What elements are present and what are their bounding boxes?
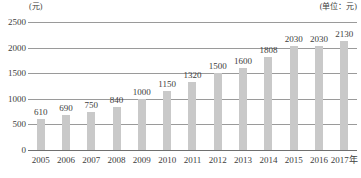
bar [214, 73, 222, 150]
y-axis-unit-label: (元) [29, 2, 42, 12]
bar [290, 46, 298, 150]
bar [239, 68, 247, 150]
x-axis-tick-label: 2013 [234, 155, 252, 165]
plot-area: 05001000150020002500 6102005690200675020… [28, 22, 357, 150]
chart-unit-note: (单位：元) [320, 2, 357, 12]
bar-value-label: 610 [34, 108, 48, 117]
x-axis-tick-label: 2016 [310, 155, 328, 165]
bar [138, 99, 146, 150]
bar-slot: 7502007 [79, 22, 104, 150]
x-axis-tick-label: 2017年 [331, 155, 358, 165]
bar-chart: (元) (单位：元) 05001000150020002500 61020056… [0, 0, 361, 178]
bar [37, 119, 45, 150]
bar-slot: 16002013 [230, 22, 255, 150]
y-axis-tick-label: 0 [2, 146, 26, 155]
bar-value-label: 2030 [285, 35, 303, 44]
bar-slot: 20302016 [306, 22, 331, 150]
y-axis-tick-label: 2500 [2, 18, 26, 27]
y-axis-tick-label: 2000 [2, 44, 26, 53]
bar [340, 41, 348, 150]
bar-value-label: 690 [59, 104, 73, 113]
x-axis-tick-label: 2009 [133, 155, 151, 165]
bar-value-label: 1150 [158, 80, 176, 89]
y-axis-tick-label: 1500 [2, 69, 26, 78]
bar-slot: 10002009 [129, 22, 154, 150]
x-axis-tick-label: 2008 [108, 155, 126, 165]
bar-slot: 6102005 [28, 22, 53, 150]
bar-value-label: 1500 [209, 62, 227, 71]
bar-value-label: 750 [85, 101, 99, 110]
bar-slot: 6902006 [53, 22, 78, 150]
bar-value-label: 1320 [183, 71, 201, 80]
bar-slot: 20302015 [281, 22, 306, 150]
gridline [28, 150, 357, 151]
x-axis-tick-label: 2015 [285, 155, 303, 165]
y-axis-tick-label: 1000 [2, 95, 26, 104]
bar-slot: 8402008 [104, 22, 129, 150]
bar-value-label: 1808 [259, 46, 277, 55]
bar-value-label: 840 [110, 96, 124, 105]
bar-slot: 18082014 [256, 22, 281, 150]
bar [264, 57, 272, 150]
bar-value-label: 1000 [133, 88, 151, 97]
bar [315, 46, 323, 150]
bar [113, 107, 121, 150]
x-axis-tick-label: 2007 [82, 155, 100, 165]
x-axis-tick-label: 2012 [209, 155, 227, 165]
bar [163, 91, 171, 150]
bar [188, 82, 196, 150]
bar-slot: 11502010 [155, 22, 180, 150]
bar-value-label: 2130 [335, 30, 353, 39]
bar-value-label: 2030 [310, 35, 328, 44]
x-axis-tick-label: 2006 [57, 155, 75, 165]
x-axis-tick-label: 2010 [158, 155, 176, 165]
bar [87, 112, 95, 150]
bar-value-label: 1600 [234, 57, 252, 66]
y-axis-tick-label: 500 [2, 120, 26, 129]
x-axis-tick-label: 2011 [184, 155, 202, 165]
x-axis-tick-label: 2005 [32, 155, 50, 165]
x-axis-tick-label: 2014 [259, 155, 277, 165]
bar-slot: 13202011 [180, 22, 205, 150]
bar [62, 115, 70, 150]
bar-slot: 15002012 [205, 22, 230, 150]
bar-slot: 21302017年 [332, 22, 357, 150]
